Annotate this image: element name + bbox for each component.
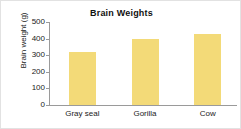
y-tick-mark xyxy=(46,88,50,89)
y-axis-title: Brain weight (g) xyxy=(19,0,28,86)
y-tick-label: 500 xyxy=(32,18,45,26)
x-tick-label: Gorilla xyxy=(133,110,156,118)
y-tick-mark xyxy=(46,22,50,23)
y-tick-label: 300 xyxy=(32,51,45,59)
y-tick-label: 200 xyxy=(32,68,45,76)
bar xyxy=(194,34,221,105)
y-axis-line xyxy=(49,22,50,106)
x-tick-label: Gray seal xyxy=(65,110,99,118)
bar xyxy=(69,52,96,105)
y-tick-label: 0 xyxy=(41,101,45,109)
y-tick-label: 400 xyxy=(32,35,45,43)
y-tick-mark xyxy=(46,39,50,40)
y-tick-mark xyxy=(46,105,50,106)
x-tick-label: Cow xyxy=(200,110,216,118)
chart-figure: Brain Weights Brain weight (g) 010020030… xyxy=(0,0,241,129)
x-axis-line xyxy=(49,105,237,106)
y-tick-label: 100 xyxy=(32,84,45,92)
plot-area: 0100200300400500 Gray sealGorillaCow xyxy=(49,22,237,106)
bar xyxy=(132,39,159,105)
y-tick-mark xyxy=(46,55,50,56)
y-tick-mark xyxy=(46,72,50,73)
